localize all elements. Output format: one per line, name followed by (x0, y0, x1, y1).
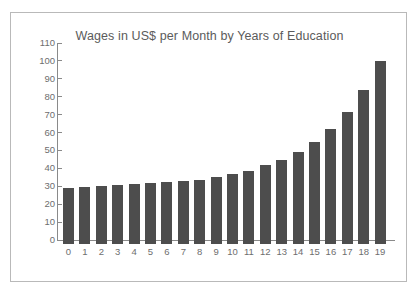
bar (342, 112, 353, 244)
y-tick-mark (58, 186, 62, 187)
bar (161, 182, 172, 244)
x-tick-label: 18 (356, 246, 372, 257)
chart-frame: Wages in US$ per Month by Years of Educa… (10, 12, 407, 282)
y-tick: 100 (13, 56, 65, 66)
chart-figure: Wages in US$ per Month by Years of Educa… (0, 0, 418, 300)
chart-title: Wages in US$ per Month by Years of Educa… (11, 29, 408, 43)
y-tick-label: 50 (21, 145, 55, 155)
bar (79, 187, 90, 244)
y-tick-label: 90 (21, 74, 55, 84)
x-tick-label: 16 (323, 246, 339, 257)
x-tick-label: 19 (372, 246, 388, 257)
x-tick-label: 12 (257, 246, 273, 257)
y-tick: 50 (13, 145, 65, 155)
bar (358, 90, 369, 244)
bar (112, 185, 123, 244)
bar (145, 183, 156, 244)
x-tick-label: 5 (143, 246, 159, 257)
y-tick-label: 10 (21, 217, 55, 227)
bar (63, 188, 74, 244)
bar (293, 152, 304, 244)
y-tick-mark (58, 168, 62, 169)
y-tick: 10 (13, 217, 65, 227)
bar (211, 177, 222, 244)
y-tick-mark (58, 204, 62, 205)
x-tick-label: 17 (339, 246, 355, 257)
y-axis-line (57, 43, 58, 240)
y-tick-mark (58, 114, 62, 115)
y-tick-label: 0 (21, 235, 55, 245)
x-tick-label: 9 (208, 246, 224, 257)
y-tick-label: 110 (21, 38, 55, 48)
x-tick-label: 4 (126, 246, 142, 257)
y-tick: 30 (13, 181, 65, 191)
x-tick-label: 8 (192, 246, 208, 257)
y-tick-mark (58, 240, 62, 241)
y-tick: 90 (13, 74, 65, 84)
y-tick: 70 (13, 110, 65, 120)
x-tick-label: 7 (175, 246, 191, 257)
y-tick: 40 (13, 163, 65, 173)
x-tick-label: 3 (110, 246, 126, 257)
bar (178, 181, 189, 244)
bar (129, 184, 140, 244)
x-tick-label: 1 (77, 246, 93, 257)
y-tick: 20 (13, 199, 65, 209)
x-tick-label: 6 (159, 246, 175, 257)
bar (276, 160, 287, 244)
y-tick-mark (58, 132, 62, 133)
bar (309, 142, 320, 244)
y-tick-mark (58, 150, 62, 151)
x-tick-label: 15 (307, 246, 323, 257)
y-tick: 110 (13, 38, 65, 48)
y-tick-mark (58, 78, 62, 79)
x-tick-label: 14 (290, 246, 306, 257)
y-tick-label: 20 (21, 199, 55, 209)
bar (96, 186, 107, 244)
y-tick: 60 (13, 128, 65, 138)
bar (227, 174, 238, 244)
y-tick: 0 (13, 235, 65, 245)
x-tick-label: 10 (225, 246, 241, 257)
x-tick-label: 11 (241, 246, 257, 257)
plot-area: 0102030405060708090100110 01234567891011… (57, 43, 397, 244)
x-tick-label: 13 (274, 246, 290, 257)
y-tick-mark (58, 60, 62, 61)
x-tick-label: 2 (93, 246, 109, 257)
y-tick-label: 30 (21, 181, 55, 191)
bar (243, 171, 254, 244)
y-tick-label: 40 (21, 163, 55, 173)
y-tick-mark (58, 222, 62, 223)
bar (260, 165, 271, 244)
y-tick-label: 100 (21, 56, 55, 66)
bar (375, 61, 386, 244)
y-tick-mark (58, 43, 62, 44)
y-tick-label: 60 (21, 128, 55, 138)
x-tick-label: 0 (61, 246, 77, 257)
y-tick: 80 (13, 92, 65, 102)
y-tick-label: 80 (21, 92, 55, 102)
y-tick-label: 70 (21, 110, 55, 120)
y-tick-mark (58, 96, 62, 97)
bar (325, 129, 336, 244)
bar (194, 180, 205, 244)
